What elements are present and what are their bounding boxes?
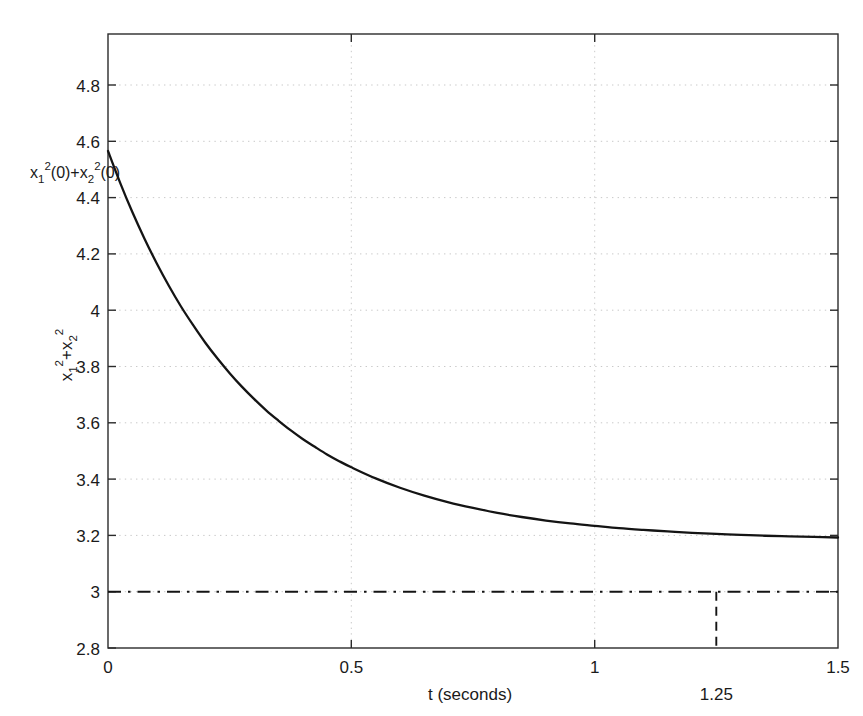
marker-annotation-label: 1.25 <box>700 685 733 704</box>
y-axis-title-sup2: 2 <box>53 329 65 335</box>
x-tick-label: 0 <box>103 658 112 677</box>
y-tick-label: 3 <box>91 583 100 602</box>
y-tick-label: 4.6 <box>76 133 100 152</box>
plot-frame <box>108 34 838 648</box>
y-tick-label: 2.8 <box>76 640 100 659</box>
y-tick-label: 4 <box>91 302 100 321</box>
y-tick-label: 4.8 <box>76 77 100 96</box>
x-tick-label: 1.5 <box>826 658 850 677</box>
y-axis-title-plusx: +x <box>57 341 76 360</box>
x-tick-label: 0.5 <box>339 658 363 677</box>
figure-container: 4.8 4.6 4.4 4.2 4 3.8 3.6 3.4 3.2 3 2.8 … <box>0 0 863 716</box>
y-axis-title: x12+x22 <box>53 329 79 382</box>
y-axis-title-sub1: 1 <box>67 366 79 372</box>
svg-text:x12+x22: x12+x22 <box>53 329 79 382</box>
x-axis-title: t (seconds) <box>428 685 512 704</box>
horizontal-gridlines <box>108 85 838 592</box>
x-tick-marks <box>351 34 594 648</box>
y-tick-label: 3.6 <box>76 414 100 433</box>
vertical-gridlines <box>351 34 594 648</box>
y-tick-label: 3.4 <box>76 471 100 490</box>
y-axis-title-sub2: 2 <box>67 335 79 341</box>
plot-canvas: 4.8 4.6 4.4 4.2 4 3.8 3.6 3.4 3.2 3 2.8 … <box>0 0 863 716</box>
y-tick-label: 4.2 <box>76 245 100 264</box>
x-tick-label: 1 <box>590 658 599 677</box>
y-tick-label: 4.4 <box>76 189 100 208</box>
y-tick-label: 3.8 <box>76 358 100 377</box>
y-tick-label: 3.2 <box>76 527 100 546</box>
initial-condition-annotation: x12(0)+x22(0) <box>30 160 120 185</box>
x-tick-labels: 0 0.5 1 1.5 <box>103 658 850 677</box>
